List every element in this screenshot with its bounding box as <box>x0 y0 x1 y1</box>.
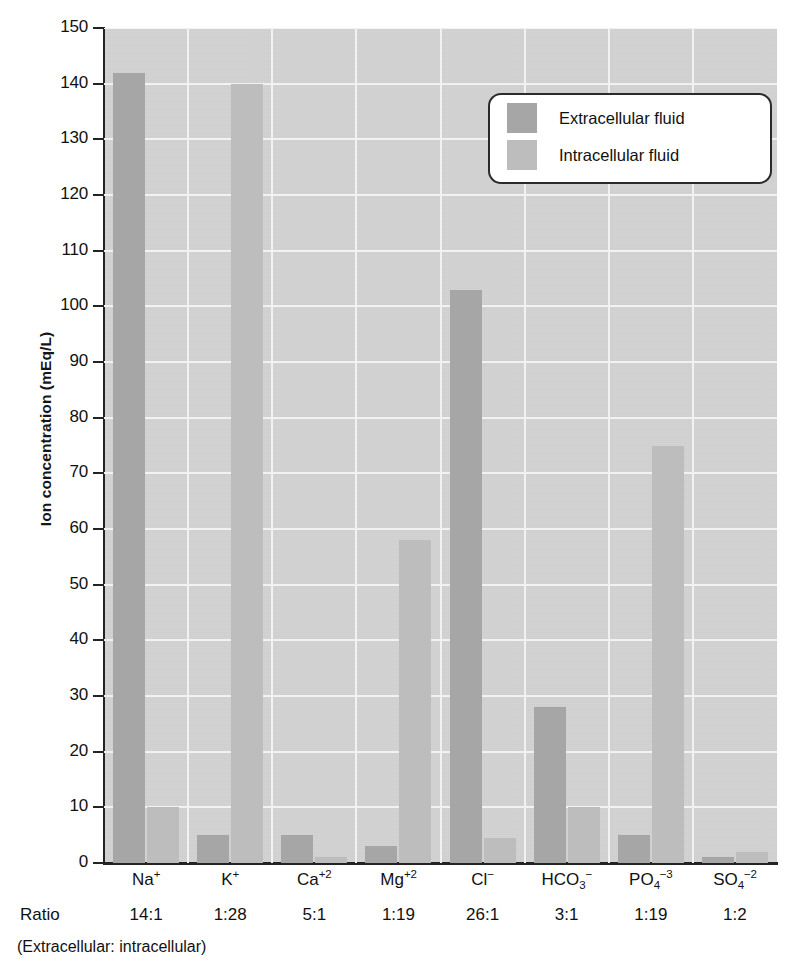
y-axis-tick-label: 10 <box>36 796 88 816</box>
legend-swatch-intracellular <box>507 140 537 170</box>
ratio-row-label: Ratio <box>20 905 60 925</box>
legend-label-extracellular: Extracellular fluid <box>559 109 685 128</box>
y-axis-tick <box>93 194 104 196</box>
y-axis-tick <box>93 361 104 363</box>
y-axis-tick <box>93 138 104 140</box>
y-axis-tick-label: 30 <box>36 685 88 705</box>
y-axis-tick-label: 120 <box>36 184 88 204</box>
bar <box>736 852 768 863</box>
y-axis-tick-label: 50 <box>36 574 88 594</box>
bar <box>315 857 347 863</box>
y-axis-tick-label: 60 <box>36 518 88 538</box>
y-axis-tick-label: 100 <box>36 295 88 315</box>
ratio-value: 1:2 <box>675 905 791 925</box>
ion-concentration-chart: Ion concentration (mEq/L) 01020304050607… <box>0 0 791 980</box>
bar <box>147 807 179 863</box>
y-axis-tick <box>93 528 104 530</box>
x-axis-tick-label: SO4−2 <box>675 868 791 891</box>
bar <box>113 73 145 863</box>
gridline-vertical <box>271 28 273 863</box>
y-axis-tick <box>93 417 104 419</box>
y-axis-tick <box>93 472 104 474</box>
bar <box>484 838 516 863</box>
legend-label-intracellular: Intracellular fluid <box>559 146 679 165</box>
bar <box>702 857 734 863</box>
y-axis-tick <box>93 305 104 307</box>
bar <box>568 807 600 863</box>
legend-swatch-extracellular <box>507 103 537 133</box>
y-axis-tick <box>93 695 104 697</box>
y-axis-tick <box>93 862 104 864</box>
bar <box>652 446 684 864</box>
y-axis-tick-label: 150 <box>36 17 88 37</box>
y-axis-tick <box>93 250 104 252</box>
bar <box>399 540 431 863</box>
y-axis-tick <box>93 584 104 586</box>
ratio-values-row: 14:11:285:11:1926:13:11:191:2 <box>104 905 777 935</box>
y-axis-tick-label: 80 <box>36 407 88 427</box>
y-axis-tick-label: 90 <box>36 351 88 371</box>
y-axis-tick <box>93 751 104 753</box>
bar <box>231 84 263 863</box>
y-axis-tick <box>93 27 104 29</box>
y-axis-tick <box>93 806 104 808</box>
bar <box>281 835 313 863</box>
gridline-vertical <box>440 28 442 863</box>
ratio-note: (Extracellular: intracellular) <box>17 938 206 956</box>
legend-item-intracellular: Intracellular fluid <box>507 140 679 170</box>
x-axis-tick-labels: Na+K+Ca+2Mg+2Cl−HCO3−PO4−3SO4−2 <box>104 868 777 904</box>
y-axis-tick-label: 40 <box>36 629 88 649</box>
bar <box>618 835 650 863</box>
chart-legend: Extracellular fluid Intracellular fluid <box>488 93 772 184</box>
y-axis-line <box>103 27 105 865</box>
gridline-vertical <box>187 28 189 863</box>
y-axis-tick-label: 70 <box>36 462 88 482</box>
bar <box>197 835 229 863</box>
gridline-vertical <box>355 28 357 863</box>
y-axis-tick-labels: 0102030405060708090100110120130140150 <box>30 0 88 900</box>
y-axis-tick-label: 20 <box>36 741 88 761</box>
y-axis-tick-label: 0 <box>36 852 88 872</box>
y-axis-tick-label: 140 <box>36 73 88 93</box>
y-axis-tick-label: 110 <box>36 240 88 260</box>
y-axis-tick-label: 130 <box>36 128 88 148</box>
y-axis-tick <box>93 639 104 641</box>
bar <box>365 846 397 863</box>
bar <box>534 707 566 863</box>
legend-item-extracellular: Extracellular fluid <box>507 103 685 133</box>
bar <box>450 290 482 863</box>
y-axis-tick <box>93 83 104 85</box>
